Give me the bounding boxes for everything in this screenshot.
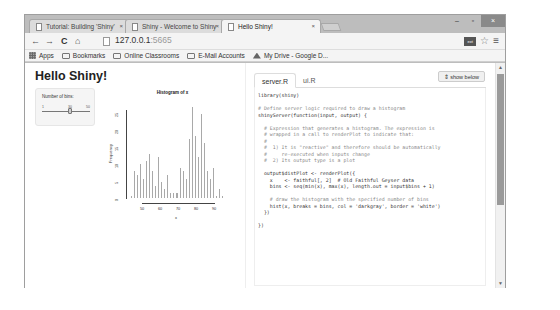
- bins-slider-label: Number of bins:: [42, 94, 74, 99]
- x-axis: [142, 203, 215, 204]
- browser-toolbar: ← → C ⌂ 127.0.0.1:5665 ext ☆ ≡: [25, 33, 505, 50]
- x-tick: 70: [176, 207, 180, 211]
- google-drive-icon: [253, 53, 261, 59]
- scrollbar-thumb[interactable]: [497, 74, 504, 205]
- plot-title: Histogram of x: [105, 90, 240, 95]
- scroll-up-arrow-icon[interactable]: ▲: [498, 64, 503, 70]
- page-icon: [228, 23, 234, 31]
- y-tick: 5: [115, 182, 119, 184]
- x-tick: 60: [158, 207, 162, 211]
- tab-label: Shiny - Welcome to Shiny: [142, 23, 216, 30]
- x-axis-label: x: [175, 215, 177, 220]
- browser-tab-hello-shiny[interactable]: Hello Shiny! ×: [221, 19, 321, 33]
- slider-min: 1: [42, 105, 44, 109]
- browser-tab-welcome[interactable]: Shiny - Welcome to Shiny ×: [125, 19, 225, 33]
- browser-tab-tutorial[interactable]: Tutorial: Building 'Shiny' ×: [29, 19, 129, 33]
- y-tick: 0: [115, 199, 119, 201]
- code-pane: server.R ui.R ⇕ show below library(shiny…: [245, 63, 493, 288]
- close-window-button[interactable]: ×: [481, 15, 505, 27]
- apps-grid-icon: [29, 52, 36, 59]
- bins-slider-track[interactable]: [42, 111, 90, 112]
- tab-close-icon[interactable]: ×: [311, 23, 315, 29]
- histogram-bar: [212, 167, 215, 199]
- page-viewport: Hello Shiny! Number of bins: 1 30 50 His…: [25, 63, 505, 288]
- bookmark-label: Bookmarks: [73, 52, 106, 59]
- window-controls: – ▫ ×: [449, 15, 505, 29]
- tab-close-icon[interactable]: ×: [215, 23, 219, 29]
- address-host: 127.0.0.1: [115, 35, 150, 45]
- y-tick: 20: [115, 130, 119, 134]
- page-icon: [103, 37, 110, 46]
- bookmark-label: My Drive - Google D...: [264, 52, 328, 59]
- forward-button[interactable]: →: [45, 36, 54, 46]
- histogram-bars: [130, 106, 224, 199]
- x-tick: 80: [194, 207, 198, 211]
- tab-ui-r[interactable]: ui.R: [296, 73, 322, 88]
- tab-server-r[interactable]: server.R: [254, 73, 296, 88]
- y-tick: 25: [115, 113, 119, 117]
- bookmark-my-drive[interactable]: My Drive - Google D...: [253, 52, 328, 59]
- new-tab-button[interactable]: [321, 23, 342, 31]
- y-axis-label: Frequency: [108, 144, 113, 163]
- bookmarks-bar: Apps Bookmarks Online Classrooms E-Mail …: [25, 50, 505, 62]
- histogram-plot: Histogram of x Frequency 0 5 10 15 20 25…: [105, 88, 240, 238]
- back-button[interactable]: ←: [31, 36, 40, 46]
- bookmark-label: E-Mail Accounts: [198, 52, 245, 59]
- browser-window: Tutorial: Building 'Shiny' × Shiny - Wel…: [24, 14, 506, 288]
- tab-label: Tutorial: Building 'Shiny': [46, 23, 115, 30]
- bookmark-online-classrooms[interactable]: Online Classrooms: [113, 52, 179, 59]
- bookmark-email-accounts[interactable]: E-Mail Accounts: [187, 52, 245, 59]
- code-line: }): [258, 222, 482, 229]
- x-tick: 50: [140, 207, 144, 211]
- home-button[interactable]: ⌂: [75, 36, 80, 46]
- x-tick: 90: [212, 207, 216, 211]
- code-viewer: library(shiny)# Define server logic requ…: [254, 88, 486, 286]
- show-below-button[interactable]: ⇕ show below: [438, 71, 485, 82]
- vertical-scrollbar[interactable]: ▲ ▼: [495, 63, 505, 288]
- bookmark-apps[interactable]: Apps: [29, 52, 54, 59]
- page-icon: [36, 23, 42, 31]
- extension-icon[interactable]: ext: [464, 37, 476, 46]
- y-axis: [126, 110, 127, 199]
- maximize-button[interactable]: ▫: [465, 15, 481, 27]
- folder-icon: [113, 53, 121, 59]
- minimize-button[interactable]: –: [449, 15, 465, 27]
- bookmark-label: Apps: [39, 52, 54, 59]
- y-tick: 15: [115, 147, 119, 151]
- reload-button[interactable]: C: [61, 36, 68, 46]
- bookmark-label: Online Classrooms: [124, 52, 179, 59]
- folder-icon: [187, 53, 195, 59]
- page-title: Hello Shiny!: [35, 69, 107, 83]
- bookmark-star-icon[interactable]: ☆: [480, 36, 489, 46]
- bookmark-bookmarks[interactable]: Bookmarks: [62, 52, 106, 59]
- scroll-down-arrow-icon[interactable]: ▼: [498, 280, 503, 286]
- tab-label: Hello Shiny!: [238, 23, 273, 30]
- page-icon: [132, 23, 138, 31]
- chrome-menu-icon[interactable]: ≡: [493, 36, 499, 46]
- address-port: :5665: [150, 35, 171, 45]
- sidebar-panel: Number of bins: 1 30 50: [35, 88, 95, 126]
- folder-icon: [62, 53, 70, 59]
- slider-max: 50: [86, 105, 90, 109]
- address-bar[interactable]: 127.0.0.1:5665: [103, 35, 523, 48]
- tab-strip: Tutorial: Building 'Shiny' × Shiny - Wel…: [25, 15, 505, 33]
- bins-slider-handle[interactable]: [68, 108, 72, 114]
- y-tick: 10: [115, 164, 119, 168]
- histogram-bar: [221, 195, 224, 199]
- tab-close-icon[interactable]: ×: [119, 23, 123, 29]
